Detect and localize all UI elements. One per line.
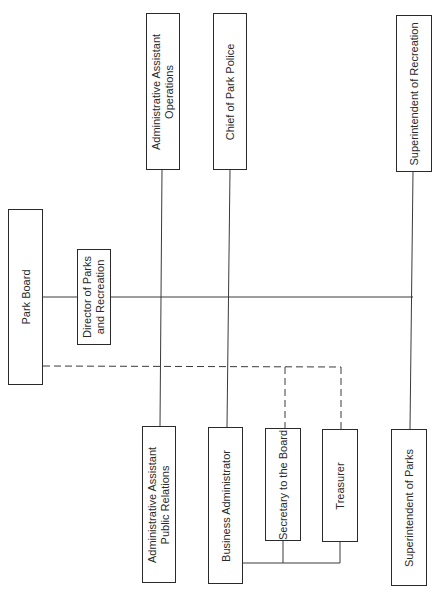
label-line: Superintendent of Parks [403,448,416,566]
node-admin-assistant-operations: Administrative Assistant Operations [146,13,180,170]
node-treasurer: Treasurer [322,429,358,542]
label-line: Chief of Park Police [224,43,237,140]
label-line: Superintendent of Recreation [408,22,421,165]
node-superintendent-recreation: Superintendent of Recreation [396,15,432,172]
node-label: Administrative Assistant Operations [150,33,176,149]
solid-connector [410,172,413,429]
node-label: Business Administrator [219,450,232,562]
node-label: Administrative Assistant Public Relation… [146,446,172,562]
node-label: Treasurer [334,462,347,509]
label-line: and Recreation [94,256,107,338]
label-line: Administrative Assistant [150,33,163,149]
node-chief-park-police: Chief of Park Police [213,13,247,170]
node-admin-assistant-public-relations: Administrative Assistant Public Relation… [142,426,176,583]
node-park-board: Park Board [8,209,43,385]
label-line: Public Relations [159,446,172,562]
solid-connector [160,170,162,426]
node-label: Chief of Park Police [224,43,237,140]
label-line: Administrative Assistant [146,446,159,562]
label-line: Treasurer [334,462,347,509]
label-line: Secretary to the Board [277,429,290,539]
node-superintendent-parks: Superintendent of Parks [391,429,427,586]
solid-connector [227,170,230,427]
label-line: Director of Parks [81,256,94,338]
node-business-administrator: Business Administrator [208,427,243,584]
node-label: Director of Parks and Recreation [81,256,107,338]
node-label: Superintendent of Parks [403,448,416,566]
node-director-parks-recreation: Director of Parks and Recreation [77,249,111,345]
node-label: Secretary to the Board [277,429,290,539]
org-chart: Park Board Director of Parks and Recreat… [0,0,440,599]
dashed-connector [43,366,341,367]
node-label: Superintendent of Recreation [408,22,421,165]
node-label: Park Board [19,269,32,324]
label-line: Business Administrator [219,450,232,562]
label-line: Operations [163,33,176,149]
label-line: Park Board [19,269,32,324]
node-secretary-to-board: Secretary to the Board [265,428,301,541]
